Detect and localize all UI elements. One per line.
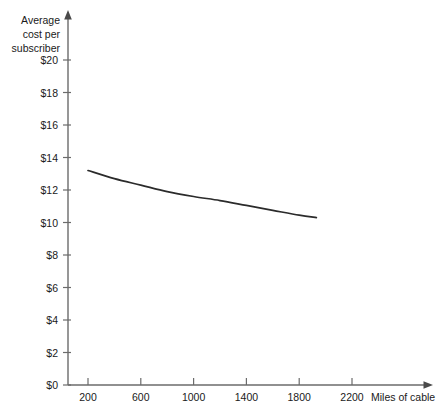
y-tick-label-10: $10: [40, 217, 58, 229]
x-tick-label-1800: 1800: [288, 391, 312, 403]
y-axis-title-line-3: subscriber: [12, 42, 61, 54]
y-tick-label-20: $20: [40, 54, 58, 66]
y-axis-tick-labels: $0 $2 $4 $6 $8 $10 $12 $14 $16 $18 $20: [40, 54, 58, 391]
x-tick-label-1000: 1000: [182, 391, 206, 403]
cost-per-subscriber-chart: $0 $2 $4 $6 $8 $10 $12 $14 $16 $18 $20 2…: [0, 0, 444, 417]
y-axis-title-line-2: cost per: [23, 28, 61, 40]
x-axis-tick-labels: 200 600 1000 1400 1800 2200: [79, 391, 364, 403]
y-tick-label-12: $12: [40, 184, 58, 196]
x-axis-ticks: [88, 378, 352, 385]
y-tick-label-14: $14: [40, 152, 58, 164]
y-axis-title-line-1: Average: [21, 14, 60, 26]
y-tick-label-16: $16: [40, 119, 58, 131]
x-tick-label-600: 600: [132, 391, 150, 403]
y-tick-label-0: $0: [46, 379, 58, 391]
x-tick-label-2200: 2200: [340, 391, 364, 403]
y-tick-label-18: $18: [40, 87, 58, 99]
chart-canvas: $0 $2 $4 $6 $8 $10 $12 $14 $16 $18 $20 2…: [0, 0, 444, 417]
y-tick-label-2: $2: [46, 347, 58, 359]
y-tick-label-8: $8: [46, 249, 58, 261]
y-axis-ticks: [63, 60, 71, 385]
x-tick-label-1400: 1400: [235, 391, 259, 403]
y-tick-label-4: $4: [46, 314, 58, 326]
x-tick-label-200: 200: [79, 391, 97, 403]
x-axis-title: Miles of cable: [371, 391, 435, 403]
y-axis-title: Average cost per subscriber: [12, 14, 61, 54]
cost-curve: [88, 171, 316, 218]
y-tick-label-6: $6: [46, 282, 58, 294]
y-axis-arrow-icon: [64, 10, 72, 20]
x-axis-arrow-icon: [424, 381, 434, 389]
